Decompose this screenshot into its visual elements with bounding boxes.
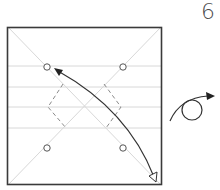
circle-bottom-left: [44, 145, 50, 151]
circle-top-right: [120, 64, 126, 70]
origami-diagram: [0, 0, 220, 190]
circle-bottom-right: [120, 145, 126, 151]
crease-lines: [8, 27, 161, 185]
arrowhead-filled: [54, 68, 63, 76]
turn-over-icon: [170, 92, 215, 121]
circle-top-left: [44, 64, 50, 70]
